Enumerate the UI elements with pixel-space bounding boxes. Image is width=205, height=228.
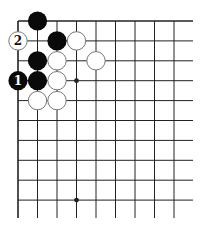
white-stone [67, 32, 85, 50]
white-stone [48, 72, 66, 90]
move-number-label: 1 [14, 74, 22, 88]
white-stone [28, 91, 46, 109]
black-stone [28, 11, 47, 30]
white-stone [48, 91, 66, 109]
black-stone [47, 31, 66, 50]
black-stone [28, 51, 47, 70]
hoshi-point [74, 78, 79, 83]
black-stone: 1 [8, 71, 27, 90]
white-stone: 2 [9, 32, 27, 50]
board-grid [18, 21, 193, 218]
go-board: 21 [0, 0, 205, 228]
white-stone [87, 52, 105, 70]
white-stone [48, 52, 66, 70]
move-number-label: 2 [14, 34, 22, 48]
hoshi-point [74, 198, 79, 203]
black-stone [28, 71, 47, 90]
